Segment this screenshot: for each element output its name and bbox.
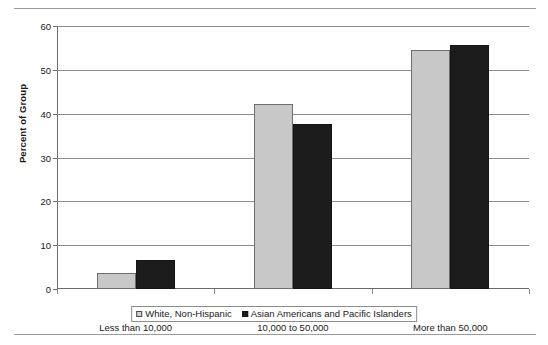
gridline: [57, 26, 529, 27]
x-tick-mark: [214, 289, 215, 294]
x-tick-mark: [372, 289, 373, 294]
top-divider-rule: [14, 8, 536, 9]
legend-label: Asian Americans and Pacific Islanders: [251, 308, 412, 319]
bar: [254, 104, 293, 289]
y-tick-label: 20: [40, 196, 51, 207]
legend-entry: Asian Americans and Pacific Islanders: [242, 308, 412, 319]
x-category-label: 10,000 to 50,000: [257, 322, 328, 333]
y-tick-mark: [53, 201, 57, 202]
bar: [136, 260, 175, 289]
y-tick-label: 10: [40, 240, 51, 251]
bar: [450, 45, 489, 289]
y-axis-title: Percent of Group: [17, 64, 28, 184]
y-tick-mark: [53, 245, 57, 246]
x-tick-mark: [529, 289, 530, 294]
y-tick-label: 30: [40, 152, 51, 163]
bar: [293, 124, 332, 289]
legend-swatch-white-non-hispanic: [136, 311, 142, 317]
legend-entry: White, Non-Hispanic: [136, 308, 232, 319]
bar: [97, 273, 136, 289]
y-tick-mark: [53, 26, 57, 27]
y-tick-mark: [53, 70, 57, 71]
x-category-label: More than 50,000: [413, 322, 487, 333]
chart-legend: White, Non-HispanicAsian Americans and P…: [131, 306, 417, 322]
y-tick-label: 60: [40, 21, 51, 32]
bottom-divider-rule: [14, 334, 536, 335]
x-tick-mark: [57, 289, 58, 294]
y-tick-mark: [53, 158, 57, 159]
legend-label: White, Non-Hispanic: [145, 308, 232, 319]
y-tick-label: 40: [40, 108, 51, 119]
plot-area: 0102030405060 Less than 10,00010,000 to …: [57, 26, 529, 289]
y-tick-mark: [53, 114, 57, 115]
chart-figure: Percent of Group 0102030405060 Less than…: [0, 0, 548, 345]
y-tick-label: 50: [40, 64, 51, 75]
bar: [411, 50, 450, 289]
x-category-label: Less than 10,000: [99, 322, 172, 333]
legend-swatch-asian-americans-pacific-islanders: [242, 311, 248, 317]
y-tick-label: 0: [46, 284, 51, 295]
